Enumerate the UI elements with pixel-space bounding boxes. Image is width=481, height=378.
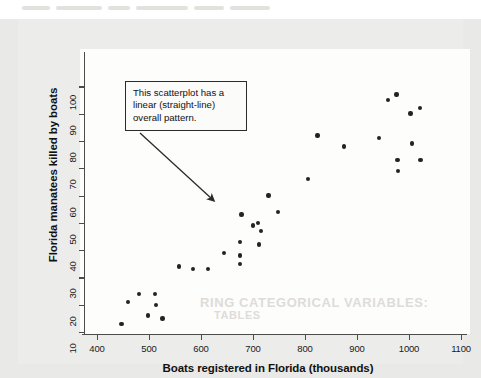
scatter-point [239,212,243,216]
scatter-point [410,141,414,145]
scatter-point [276,210,280,214]
page-top-margin [0,0,481,19]
scatter-point [251,223,255,227]
scatter-point [394,92,398,96]
y-tick-mark [79,250,84,251]
x-tick-mark [149,335,150,340]
figure-container: RING CATEGORICAL VARIABLES: TABLES 10203… [0,0,481,378]
scatter-point [342,144,346,148]
scatter-point [126,300,130,304]
x-tick-label: 1000 [389,343,429,354]
scatter-point [257,242,261,246]
y-tick-mark [79,196,84,197]
x-tick-label: 700 [233,343,273,354]
scatter-point [418,158,422,162]
y-tick-mark [79,305,84,306]
scatter-point [191,267,195,271]
scatter-point [177,264,181,268]
y-axis-title: Florida manatees killed by boats [47,45,59,305]
x-tick-label: 800 [285,343,325,354]
x-tick-mark [461,335,462,340]
y-tick-mark [79,168,84,169]
y-tick-mark [79,86,84,87]
y-axis-line [84,52,85,335]
y-tick-mark [79,141,84,142]
chart-panel: RING CATEGORICAL VARIABLES: TABLES 10203… [18,19,463,364]
scatter-point [395,158,399,162]
x-tick-mark [305,335,306,340]
y-tick-mark [79,223,84,224]
y-tick-mark [79,277,84,278]
annotation-arrow [18,19,481,378]
annotation-callout: This scatterplot has a linear (straight-… [125,81,247,131]
x-axis-title: Boats registered in Florida (thousands) [68,362,468,374]
scatter-point [154,303,158,307]
scatter-point [315,133,319,137]
x-tick-mark [201,335,202,340]
x-tick-mark [97,335,98,340]
x-tick-label: 600 [181,343,221,354]
scatter-point [222,251,226,255]
y-tick-label: 100 [67,86,78,120]
scatter-point [119,322,123,326]
scatter-point [396,169,400,173]
scatter-point [306,177,310,181]
scatter-point [386,98,390,102]
y-tick-mark [79,332,84,333]
scatter-point [377,136,381,140]
scatter-point [160,316,164,320]
scatter-point [259,229,263,233]
scatter-point [238,262,242,266]
scatter-point [146,313,150,317]
x-tick-label: 1100 [441,343,481,354]
scatter-point [256,221,260,225]
scatter-point [153,292,157,296]
scatter-point [266,193,270,197]
scatter-point [238,253,242,257]
scatter-point [418,106,422,110]
scatter-point [238,240,242,244]
page-header-text-blur [22,2,422,15]
x-tick-label: 500 [129,343,169,354]
x-tick-label: 900 [337,343,377,354]
scatter-point [408,111,412,115]
x-tick-mark [357,335,358,340]
plot-area: 102030405060708090100 400500600700800900… [18,19,463,364]
scatter-point [206,267,210,271]
scatter-point [137,292,141,296]
x-tick-mark [253,335,254,340]
y-tick-mark [79,114,84,115]
x-tick-label: 400 [77,343,117,354]
x-tick-mark [409,335,410,340]
